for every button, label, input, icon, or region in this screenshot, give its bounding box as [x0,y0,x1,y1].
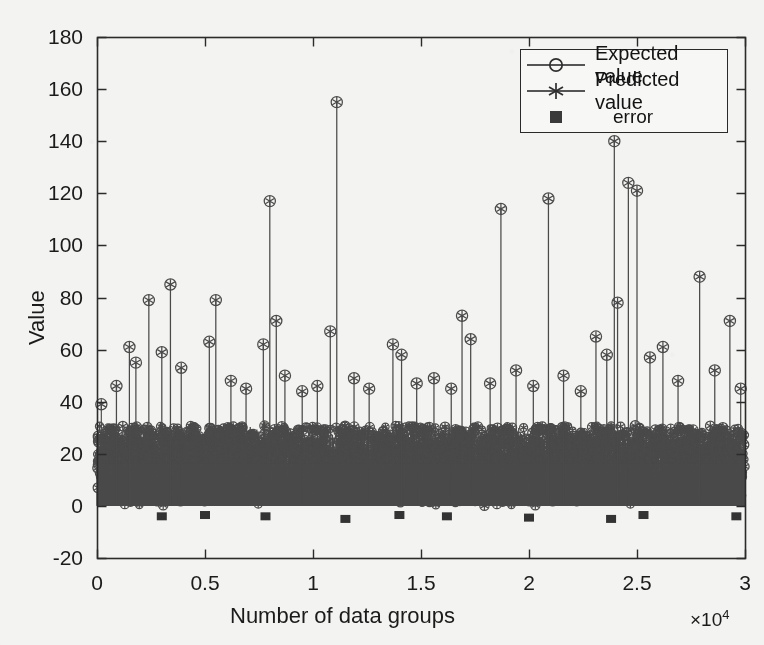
x-tick-label: 1 [283,572,343,593]
x-tick-label: 0.5 [175,572,235,593]
circle-icon [525,52,587,78]
x-axis-label: Number of data groups [230,605,455,627]
x-multiplier-base: ×10 [690,609,722,630]
y-tick-label: 180 [0,26,83,47]
legend-item-error[interactable]: error [525,104,653,130]
legend-sample-error [525,104,587,130]
x-tick-label: 0 [67,572,127,593]
y-tick-label: 60 [0,339,83,360]
x-tick-label: 1.5 [391,572,451,593]
square-icon [525,104,587,130]
x-tick-label: 2.5 [607,572,667,593]
legend-label-error: error [613,106,653,128]
legend-sample-predicted [525,78,587,104]
asterisk-icon [525,78,587,104]
y-tick-label: 0 [0,495,83,516]
x-tick-label: 3 [715,572,764,593]
x-tick-label: 2 [499,572,559,593]
y-tick-label: 40 [0,391,83,412]
y-tick-label: 20 [0,443,83,464]
y-tick-label: -20 [0,547,83,568]
legend-item-predicted-value[interactable]: Predicted value [525,78,727,104]
y-tick-label: 80 [0,287,83,308]
legend-sample-expected [525,52,587,78]
y-tick-label: 120 [0,182,83,203]
x-axis-multiplier: ×104 [690,608,729,629]
chart-legend[interactable]: Expected value Predicted value error [520,49,728,133]
y-tick-label: 160 [0,78,83,99]
y-tick-label: 140 [0,130,83,151]
y-tick-label: 100 [0,234,83,255]
x-multiplier-exponent: 4 [722,607,729,622]
